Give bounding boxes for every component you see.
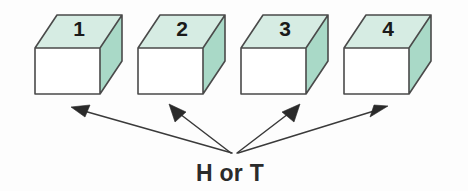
box-4-front-face xyxy=(344,48,409,94)
arrow-to-box-1 xyxy=(71,105,232,153)
box-1: 1 xyxy=(35,15,122,94)
arrow-to-box-4 xyxy=(238,105,388,153)
box-1-front-face xyxy=(35,48,100,94)
arrow-group xyxy=(71,104,388,153)
arrow-to-box-2 xyxy=(169,104,231,153)
box-3: 3 xyxy=(241,15,328,94)
coin-outcome-diagram: 1 2 3 4 xyxy=(0,0,468,191)
box-2-label: 2 xyxy=(176,17,188,40)
box-3-label: 3 xyxy=(279,17,291,40)
box-2: 2 xyxy=(138,15,225,94)
box-2-front-face xyxy=(138,48,203,94)
box-4: 4 xyxy=(344,15,431,94)
caption-h-or-t: H or T xyxy=(196,160,264,186)
box-4-label: 4 xyxy=(382,17,394,40)
arrow-to-box-3 xyxy=(237,104,300,153)
box-1-label: 1 xyxy=(73,17,85,40)
box-3-front-face xyxy=(241,48,306,94)
diagram-canvas: 1 2 3 4 xyxy=(0,0,468,191)
